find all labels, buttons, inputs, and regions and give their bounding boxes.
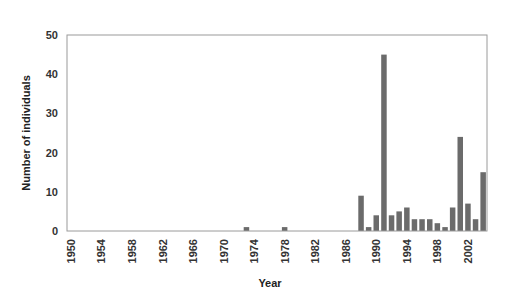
x-axis-ticks: 1950195419581962196619701974197819821986… [65,238,474,263]
y-tick-label: 50 [46,29,58,41]
y-tick-label: 0 [52,225,58,237]
y-tick-label: 20 [46,147,58,159]
x-tick-label: 1998 [431,239,443,263]
x-axis-title: Year [258,277,282,289]
bar-1995 [412,219,418,231]
x-tick-label: 1990 [370,239,382,263]
bar-2003 [473,219,479,231]
x-tick-label: 1982 [309,239,321,263]
bar-2002 [465,204,471,231]
x-tick-label: 1986 [340,239,352,263]
x-tick-label: 1994 [401,238,413,263]
y-tick-label: 30 [46,107,58,119]
bar-1993 [396,211,402,231]
x-tick-label: 1978 [279,239,291,263]
y-axis-title: Number of individuals [20,75,32,191]
bar-2000 [450,208,456,232]
bar-1991 [381,55,387,231]
bar-1992 [389,215,395,231]
bar-1997 [427,219,433,231]
bar-2001 [458,137,464,231]
plot-frame [67,35,487,231]
bar-1988 [358,196,364,231]
x-tick-label: 1950 [65,239,77,263]
bar-1994 [404,208,410,232]
x-tick-label: 1966 [187,239,199,263]
bar-1999 [442,227,448,231]
x-tick-label: 1962 [157,239,169,263]
bar-1978 [282,227,288,231]
bar-2004 [480,172,486,231]
bar-1990 [374,215,380,231]
y-axis-ticks: 01020304050 [46,29,58,237]
x-tick-label: 1958 [126,239,138,263]
bar-chart: 01020304050 1950195419581962196619701974… [0,0,511,301]
bar-1996 [419,219,425,231]
x-tick-label: 2002 [462,239,474,263]
x-tick-label: 1970 [218,239,230,263]
y-tick-label: 40 [46,68,58,80]
x-tick-label: 1974 [248,238,260,263]
bar-1998 [435,223,441,231]
bars-group [244,55,486,231]
y-tick-label: 10 [46,186,58,198]
x-tick-label: 1954 [95,238,107,263]
bar-1973 [244,227,250,231]
bar-1989 [366,227,372,231]
